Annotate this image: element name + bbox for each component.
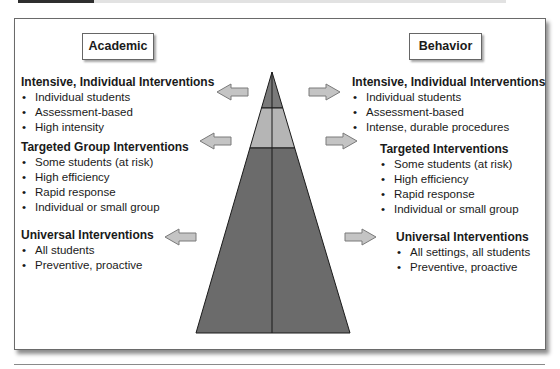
academic-universal-section: Universal Interventions All students Pre…	[21, 228, 154, 273]
list-item: High efficiency	[380, 172, 519, 187]
behavior-universal-section: Universal Interventions All settings, al…	[396, 230, 530, 275]
bottom-separator-line	[14, 364, 545, 365]
behavior-intensive-section: Intensive, Individual Interventions Indi…	[352, 75, 545, 135]
list-item: Rapid response	[380, 187, 519, 202]
list-item: Preventive, proactive	[21, 258, 154, 273]
behavior-intensive-list: Individual students Assessment-based Int…	[352, 90, 545, 135]
list-item: Assessment-based	[21, 105, 214, 120]
behavior-label-box: Behavior	[409, 33, 482, 60]
academic-intensive-title: Intensive, Individual Interventions	[21, 75, 214, 90]
list-item: All students	[21, 243, 154, 258]
list-item: Some students (at risk)	[21, 155, 189, 170]
list-item: Rapid response	[21, 185, 189, 200]
behavior-targeted-title: Targeted Interventions	[380, 142, 519, 157]
list-item: Individual or small group	[380, 202, 519, 217]
list-item: High intensity	[21, 120, 214, 135]
behavior-targeted-section: Targeted Interventions Some students (at…	[380, 142, 519, 217]
academic-intensive-section: Intensive, Individual Interventions Indi…	[21, 75, 214, 135]
arrow-left-universal-icon	[165, 229, 196, 245]
behavior-intensive-title: Intensive, Individual Interventions	[352, 75, 545, 90]
academic-intensive-list: Individual students Assessment-based Hig…	[21, 90, 214, 135]
list-item: High efficiency	[21, 170, 189, 185]
academic-universal-title: Universal Interventions	[21, 228, 154, 243]
arrow-left-targeted-icon	[200, 133, 231, 149]
academic-targeted-list: Some students (at risk) High efficiency …	[21, 155, 189, 215]
behavior-universal-list: All settings, all students Preventive, p…	[396, 245, 530, 275]
academic-targeted-section: Targeted Group Interventions Some studen…	[21, 140, 189, 215]
arrow-right-intensive-icon	[309, 84, 340, 100]
pyramid-tier-universal	[196, 148, 350, 333]
behavior-targeted-list: Some students (at risk) High efficiency …	[380, 157, 519, 217]
list-item: All settings, all students	[396, 245, 530, 260]
arrow-left-intensive-icon	[217, 84, 248, 100]
arrow-right-universal-icon	[345, 229, 376, 245]
list-item: Some students (at risk)	[380, 157, 519, 172]
list-item: Individual students	[352, 90, 545, 105]
list-item: Preventive, proactive	[396, 260, 530, 275]
list-item: Intense, durable procedures	[352, 120, 545, 135]
arrow-right-targeted-icon	[326, 133, 357, 149]
behavior-universal-title: Universal Interventions	[396, 230, 530, 245]
academic-targeted-title: Targeted Group Interventions	[21, 140, 189, 155]
list-item: Individual students	[21, 90, 214, 105]
list-item: Individual or small group	[21, 200, 189, 215]
academic-label-box: Academic	[82, 33, 154, 60]
list-item: Assessment-based	[352, 105, 545, 120]
academic-universal-list: All students Preventive, proactive	[21, 243, 154, 273]
